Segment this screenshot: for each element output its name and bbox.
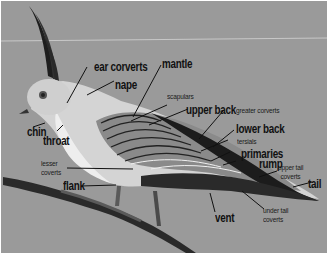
label-throat: throat [43,135,69,147]
label-lesser-coverts-line1: lesser [41,159,61,168]
label-mantle: mantle [162,58,192,70]
label-lower-back: lower back [236,123,284,135]
bird-photo: ear corverts mantle nape scapulars upper… [1,1,327,253]
label-scapulars: scapulars [167,93,194,101]
label-ear-coverts: ear corverts [94,61,147,73]
label-under-tail-coverts: under tail coverts [263,206,288,224]
label-lesser-coverts-line2: coverts [41,168,61,177]
label-flank: flank [63,180,85,192]
label-upper-back: upper back [186,104,236,116]
label-nape: nape [115,79,137,91]
label-tersials: tersials [237,138,256,146]
label-upper-tail-coverts-line2: coverts [278,172,303,181]
label-lesser-coverts: lesser coverts [41,159,61,177]
label-tail: tail [308,178,321,190]
label-greater-coverts: greater corverts [236,107,279,115]
label-vent: vent [215,212,234,224]
label-under-tail-coverts-line2: coverts [263,215,288,224]
label-upper-tail-coverts-line1: upper tail [278,163,303,172]
label-under-tail-coverts-line1: under tail [263,206,288,215]
label-upper-tail-coverts: upper tail coverts [278,163,303,181]
